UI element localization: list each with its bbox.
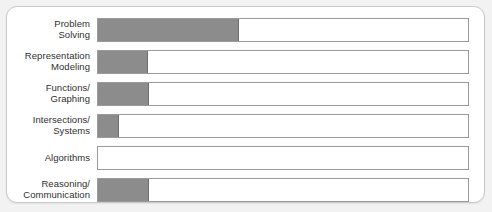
chart-panel: Problem SolvingRepresentation ModelingFu…: [6, 6, 485, 203]
bar-fill: [98, 83, 149, 105]
bar-fill: [98, 179, 149, 201]
chart-row: Problem Solving: [7, 17, 484, 43]
bar-track: [97, 50, 469, 74]
bar-track: [97, 178, 469, 202]
bar-label: Functions/ Graphing: [7, 83, 90, 104]
chart-row: Functions/ Graphing: [7, 81, 484, 107]
bar-label: Algorithms: [7, 153, 90, 164]
bar-fill: [98, 19, 239, 41]
chart-row: Intersections/ Systems: [7, 113, 484, 139]
bar-label: Intersections/ Systems: [7, 115, 90, 136]
bar-track: [97, 18, 469, 42]
bar-fill: [98, 115, 119, 137]
bar-track: [97, 82, 469, 106]
chart-row: Reasoning/ Communication: [7, 177, 484, 203]
bar-track: [97, 114, 469, 138]
bar-fill: [98, 51, 148, 73]
chart-row: Representation Modeling: [7, 49, 484, 75]
bar-track: [97, 146, 469, 170]
bar-label: Problem Solving: [7, 19, 90, 40]
bar-label: Reasoning/ Communication: [7, 179, 90, 200]
bar-label: Representation Modeling: [7, 51, 90, 72]
bar-chart: Problem SolvingRepresentation ModelingFu…: [7, 7, 484, 202]
chart-row: Algorithms: [7, 145, 484, 171]
